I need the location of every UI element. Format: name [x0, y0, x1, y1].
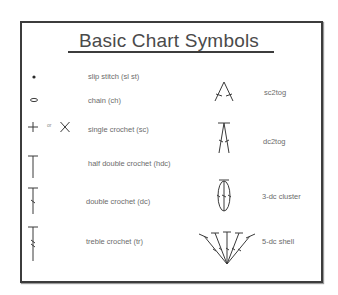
treble-crochet-icon — [26, 225, 40, 263]
single-crochet-x-icon — [58, 120, 72, 134]
chain-label: chain (ch) — [88, 96, 121, 105]
three-dc-cluster-icon — [214, 178, 234, 214]
sc2tog-label: sc2tog — [264, 88, 286, 97]
five-dc-shell-icon — [198, 230, 256, 266]
five-dc-shell-label: 5-dc shell — [262, 237, 294, 246]
or-text: or — [47, 122, 51, 128]
sc2tog-icon — [212, 80, 236, 104]
single-crochet-plus-icon — [26, 120, 40, 134]
double-crochet-icon — [26, 186, 40, 216]
slip-stitch-icon — [28, 72, 40, 82]
page-title: Basic Chart Symbols — [0, 30, 338, 52]
dc2tog-label: dc2tog — [263, 137, 286, 146]
three-dc-cluster-label: 3-dc cluster — [262, 192, 301, 201]
half-double-crochet-label: half double crochet (hdc) — [88, 159, 171, 168]
single-crochet-label: single crochet (sc) — [88, 125, 149, 134]
treble-crochet-label: treble crochet (tr) — [86, 237, 143, 246]
chain-icon — [26, 95, 42, 105]
dc2tog-icon — [214, 121, 234, 155]
half-double-crochet-icon — [26, 154, 40, 180]
slip-stitch-label: slip stitch (sl st) — [88, 72, 139, 81]
title-underline — [68, 51, 274, 53]
double-crochet-label: double crochet (dc) — [86, 197, 150, 206]
